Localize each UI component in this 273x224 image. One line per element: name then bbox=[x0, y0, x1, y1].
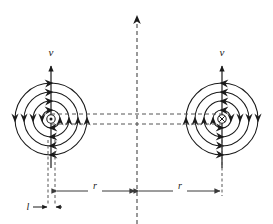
physics-diagram: v bbox=[0, 0, 273, 224]
dimension-r-left-label: r bbox=[93, 180, 97, 191]
left-field-arrowheads-top bbox=[45, 80, 54, 115]
left-current-symbol-out-of-page bbox=[47, 115, 55, 123]
left-conductor: v bbox=[11, 46, 90, 206]
left-field-arrowheads-bottom bbox=[49, 124, 58, 159]
left-velocity-label: v bbox=[49, 46, 54, 58]
right-field-arrowheads-top bbox=[220, 80, 229, 115]
right-conductor: v bbox=[182, 46, 261, 196]
center-axis bbox=[133, 15, 141, 224]
dimension-r-right-label: r bbox=[178, 180, 182, 191]
dimension-l-label: l bbox=[27, 201, 30, 212]
dimension-r-right: r bbox=[139, 180, 220, 196]
dimension-r-left: r bbox=[57, 180, 135, 196]
right-field-arrowheads-bottom bbox=[216, 124, 225, 159]
center-axis-arrowhead bbox=[133, 15, 141, 24]
right-velocity-label: v bbox=[220, 46, 225, 58]
left-field-arrowheads-left bbox=[11, 114, 45, 123]
right-current-symbol-into-page bbox=[218, 115, 226, 123]
diagram-canvas: v bbox=[0, 0, 273, 224]
dimension-l: l bbox=[27, 201, 62, 212]
right-field-arrowheads-right bbox=[227, 114, 261, 123]
dimension-lines: r r l bbox=[27, 180, 220, 212]
